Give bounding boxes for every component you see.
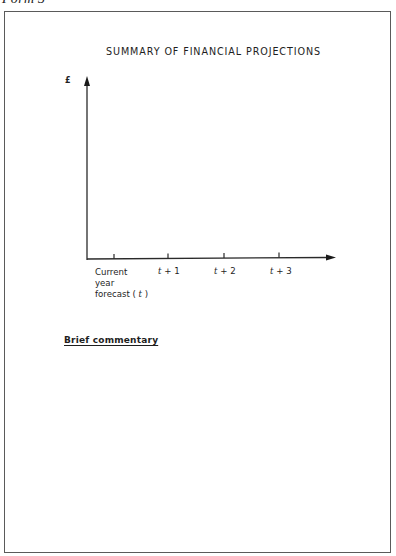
x-axis-arrow-icon <box>326 255 336 261</box>
x-tick-label-t1-suffix: + 1 <box>161 266 179 276</box>
x-tick-label-current-prefix: forecast ( <box>95 289 139 299</box>
x-tick-label-current: Current year forecast ( t ) <box>95 267 148 300</box>
y-axis-arrow-icon <box>84 76 90 86</box>
x-tick-label-current-line3: forecast ( t ) <box>95 289 148 300</box>
commentary-heading: Brief commentary <box>64 335 158 345</box>
x-tick-label-current-suffix: ) <box>142 289 148 299</box>
x-tick-label-t3-suffix: + 3 <box>273 266 291 276</box>
x-tick-label-current-line1: Current <box>95 267 148 278</box>
x-tick-label-t2-suffix: + 2 <box>217 266 235 276</box>
x-tick-label-t2: t + 2 <box>214 266 236 276</box>
x-tick-label-t3: t + 3 <box>270 266 292 276</box>
x-axis-line <box>87 258 328 260</box>
x-tick-label-current-line2: year <box>95 278 148 289</box>
x-tick-label-t1: t + 1 <box>158 266 180 276</box>
commentary-area[interactable] <box>60 355 380 545</box>
